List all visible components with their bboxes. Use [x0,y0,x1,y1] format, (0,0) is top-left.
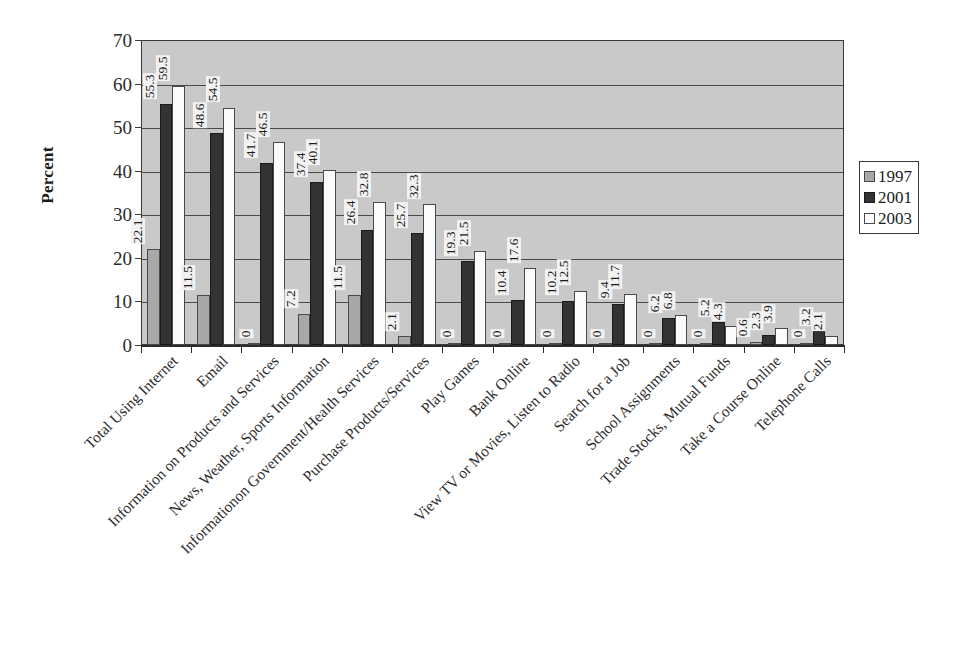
bar: 55.3 [160,104,173,345]
y-axis-tick [135,84,142,85]
x-axis-tick-label: Total Using Internet [81,352,182,453]
legend: 199720012003 [859,161,919,234]
bar-value-label: 11.5 [181,265,195,290]
legend-label: 2001 [878,189,912,206]
y-axis-tick-label: 70 [96,31,132,50]
y-axis-tick-label: 20 [96,249,132,268]
y-axis-title: Percent [38,115,58,235]
y-axis-tick-label: 30 [96,205,132,224]
bar-value-label: 32.3 [407,174,421,200]
y-axis-tick [135,258,142,259]
legend-swatch-2001 [864,192,875,203]
legend-swatch-1997 [864,171,875,182]
bar-value-label: 12.5 [557,260,571,286]
bar: 2.3 [762,335,775,345]
bar-value-label: 54.5 [206,77,220,103]
bar: 41.7 [260,163,273,345]
bar: 46.5 [273,142,286,345]
y-axis-tick-label: 10 [96,292,132,311]
bar-value-label: 22.1 [131,218,145,244]
bar-value-label: 11.7 [608,264,622,289]
bar-value-label: 26.4 [344,199,358,225]
x-axis-tick [141,346,142,353]
bar-value-label: 59.5 [156,55,170,81]
y-axis-tick-label: 40 [96,162,132,181]
bar-value-label: 48.6 [193,103,207,129]
x-axis-tick-label: Email [193,352,232,391]
y-axis-tick-label: 0 [96,336,132,355]
legend-item: 1997 [864,166,912,187]
bar-value-label: 7.2 [285,290,299,309]
bar-value-label: 40.1 [306,140,320,166]
bar-group: 22.155.359.5 [147,40,185,345]
y-axis-tick [135,40,142,41]
bar: 59.5 [172,86,185,345]
y-axis-tick [135,171,142,172]
bar-value-label: 32.8 [357,171,371,197]
y-axis-tick-label: 50 [96,118,132,137]
bar-group: 041.746.5 [248,40,286,345]
legend-item: 2001 [864,187,912,208]
bar-value-label: 46.5 [256,112,270,138]
legend-label: 1997 [878,168,912,185]
y-axis-tick [135,214,142,215]
legend-swatch-2003 [864,213,875,224]
bar: 22.1 [147,249,160,345]
bar-chart: 010203040506070 Percent 22.155.359.511.5… [0,0,967,648]
y-axis-tick-label: 60 [96,75,132,94]
y-axis-tick [135,301,142,302]
y-axis-tick [135,127,142,128]
bar: 32.3 [423,204,436,345]
legend-label: 2003 [878,210,912,227]
legend-item: 2003 [864,208,912,229]
